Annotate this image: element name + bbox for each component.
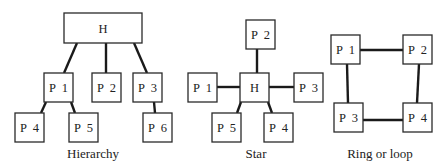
node-label: P 6: [148, 121, 167, 135]
node-label: H: [250, 81, 259, 95]
edge-h-p4: [268, 102, 272, 113]
star-node-p5: P 5: [212, 113, 241, 142]
hierarchy-node-p3: P 3: [133, 73, 162, 102]
node-label: P 3: [299, 81, 318, 95]
network-topologies-figure: H P 1 P 2 P 3 P 4 P 5 P 6 Hierarchy: [0, 0, 447, 168]
ring-caption: Ring or loop: [347, 146, 413, 161]
hierarchy-node-h: H: [64, 13, 142, 43]
ring-node-p3: P 3: [334, 103, 363, 132]
node-label: H: [98, 22, 107, 36]
star-node-p2: P 2: [246, 20, 275, 49]
node-label: P 4: [408, 111, 428, 125]
star-node-h: H: [240, 73, 269, 102]
node-label: P 2: [408, 43, 427, 57]
ring-node-p2: P 2: [403, 35, 432, 64]
node-label: P 5: [74, 121, 93, 135]
hierarchy-caption: Hierarchy: [67, 146, 119, 161]
edge-p1-p4: [41, 102, 46, 113]
ring-diagram: P 1 P 2 P 3 P 4 Ring or loop: [331, 35, 432, 161]
hierarchy-node-p4: P 4: [15, 113, 44, 142]
node-label: P 4: [20, 121, 40, 135]
edge-p2-p4: [417, 64, 419, 103]
node-label: P 1: [49, 81, 68, 95]
edge-h-p5: [237, 102, 241, 113]
node-label: P 4: [269, 121, 289, 135]
node-label: P 3: [339, 111, 358, 125]
edge-h-p3: [134, 43, 147, 73]
node-label: P 1: [336, 43, 355, 57]
hierarchy-node-p2: P 2: [92, 73, 121, 102]
node-label: P 2: [97, 81, 116, 95]
hierarchy-node-p1: P 1: [44, 73, 73, 102]
ring-node-p1: P 1: [331, 35, 360, 64]
edge-h-p1: [64, 43, 77, 73]
star-node-p4: P 4: [264, 113, 293, 142]
star-node-p3: P 3: [294, 73, 323, 102]
edge-p1-p3: [347, 64, 348, 103]
hierarchy-diagram: H P 1 P 2 P 3 P 4 P 5 P 6 Hierarchy: [15, 13, 172, 161]
edge-p3-p6: [154, 102, 155, 113]
star-caption: Star: [246, 146, 268, 161]
node-label: P 3: [138, 81, 157, 95]
node-label: P 1: [193, 81, 212, 95]
hierarchy-node-p5: P 5: [69, 113, 98, 142]
node-label: P 2: [251, 28, 270, 42]
edge-p1-p5: [71, 102, 75, 113]
star-diagram: H P 2 P 1 P 3 P 5 P 4 Star: [188, 20, 323, 161]
hierarchy-node-p6: P 6: [143, 113, 172, 142]
ring-node-p4: P 4: [403, 103, 432, 132]
star-node-p1: P 1: [188, 73, 217, 102]
node-label: P 5: [217, 121, 236, 135]
